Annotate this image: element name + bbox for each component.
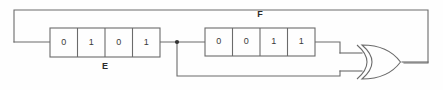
xor-gate-body [362,45,401,79]
register-e-cell-2[interactable]: 0 [105,38,133,47]
register-f-to-gate [315,42,340,53]
register-e-label: E [50,62,160,71]
junction-layer [175,40,179,44]
register-f-label: F [205,10,315,19]
register-e-cell-0[interactable]: 0 [50,38,78,47]
register-e-cell-1[interactable]: 1 [78,38,106,47]
wire-junction [175,40,179,44]
register-f-cell-3[interactable]: 1 [288,37,316,46]
register-f-cell-1[interactable]: 0 [233,37,261,46]
register-e-cell-3[interactable]: 1 [133,38,161,47]
register-f-cell-2[interactable]: 1 [260,37,288,46]
register-f-cell-0[interactable]: 0 [205,37,233,46]
circuit-diagram: 0101E0011F [0,0,443,90]
xor-gate-arc [357,45,367,79]
gate-layer [357,45,401,79]
